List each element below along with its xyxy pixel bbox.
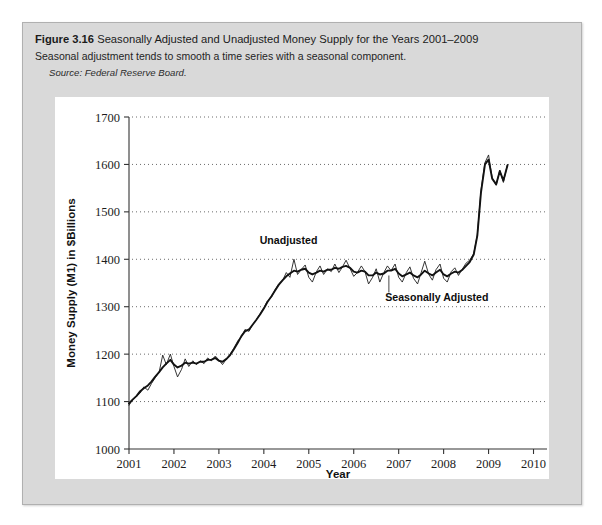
x-tick-label: 2004 bbox=[251, 457, 277, 471]
x-tick-label: 2001 bbox=[117, 457, 142, 471]
chart-svg: 10001100120013001400150016001700 2001200… bbox=[55, 97, 549, 479]
x-tick-label: 2005 bbox=[296, 457, 321, 471]
x-tick-label: 2007 bbox=[386, 457, 411, 471]
x-tick-label: 2009 bbox=[476, 457, 501, 471]
y-tick-label: 1600 bbox=[95, 158, 120, 172]
y-tick-label: 1300 bbox=[95, 300, 120, 314]
figure-card: Figure 3.16 Seasonally Adjusted and Unad… bbox=[22, 22, 582, 505]
y-tick-label: 1500 bbox=[95, 205, 120, 219]
y-tick-label: 1200 bbox=[95, 348, 120, 362]
y-tick-label: 1700 bbox=[95, 111, 120, 125]
y-tick-label: 1100 bbox=[95, 395, 120, 409]
series-label-seasonally_adjusted: Seasonally Adjusted bbox=[385, 291, 488, 303]
series-line-unadjusted bbox=[129, 155, 507, 405]
y-axis-ticks: 10001100120013001400150016001700 bbox=[95, 111, 129, 457]
series-label-unadjusted: Unadjusted bbox=[260, 234, 318, 246]
y-axis-title: Money Supply (M1) in $Billions bbox=[65, 198, 77, 367]
x-tick-label: 2008 bbox=[431, 457, 456, 471]
series-line-seasonally-adjusted bbox=[129, 160, 507, 404]
figure-title: Seasonally Adjusted and Unadjusted Money… bbox=[97, 33, 478, 45]
gridlines bbox=[132, 117, 547, 402]
figure-caption: Figure 3.16 Seasonally Adjusted and Unad… bbox=[35, 32, 571, 80]
figure-subtitle: Seasonal adjustment tends to smooth a ti… bbox=[35, 49, 571, 64]
caption-title-line: Figure 3.16 Seasonally Adjusted and Unad… bbox=[35, 32, 571, 47]
x-tick-label: 2003 bbox=[206, 457, 231, 471]
x-tick-label: 2010 bbox=[521, 457, 546, 471]
x-tick-label: 2002 bbox=[161, 457, 186, 471]
figure-screenshot: Figure 3.16 Seasonally Adjusted and Unad… bbox=[0, 0, 602, 525]
x-axis-title: Year bbox=[326, 468, 351, 479]
plot-panel: 10001100120013001400150016001700 2001200… bbox=[55, 97, 549, 479]
figure-source: Source: Federal Reserve Board. bbox=[49, 66, 571, 80]
y-tick-label: 1400 bbox=[95, 253, 120, 267]
figure-number: Figure 3.16 bbox=[35, 33, 94, 45]
y-tick-label: 1000 bbox=[95, 443, 120, 457]
